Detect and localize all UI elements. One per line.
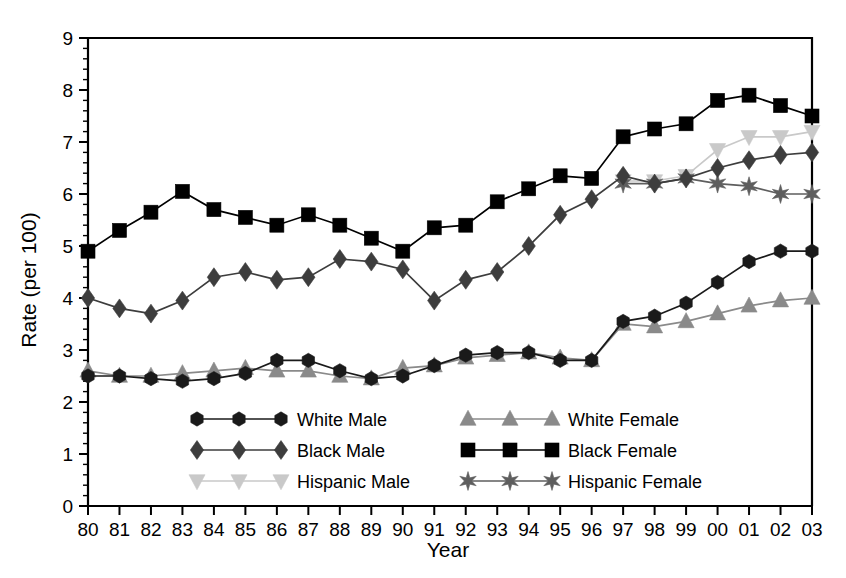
data-point-marker bbox=[270, 270, 283, 289]
x-tick-label: 82 bbox=[140, 519, 161, 540]
y-tick-label: 6 bbox=[62, 184, 73, 205]
legend-item-label: Hispanic Male bbox=[297, 472, 410, 492]
data-point-marker bbox=[804, 289, 820, 304]
data-point-marker bbox=[710, 144, 726, 159]
data-point-marker bbox=[522, 237, 535, 256]
data-point-marker bbox=[522, 182, 536, 196]
x-tick-label: 83 bbox=[172, 519, 193, 540]
y-tick-label: 4 bbox=[62, 288, 73, 309]
legend-item-label: White Female bbox=[568, 410, 679, 430]
x-tick-label: 03 bbox=[801, 519, 822, 540]
y-tick-label: 5 bbox=[62, 236, 73, 257]
legend-item-hispanic-female[interactable]: Hispanic Female bbox=[460, 472, 702, 492]
data-point-marker bbox=[774, 99, 788, 113]
x-tick-label: 90 bbox=[392, 519, 413, 540]
x-tick-label: 89 bbox=[361, 519, 382, 540]
data-point-marker bbox=[503, 443, 517, 457]
data-point-marker bbox=[774, 146, 787, 165]
x-tick-label: 02 bbox=[770, 519, 791, 540]
data-point-marker bbox=[207, 268, 220, 287]
data-point-marker bbox=[81, 244, 95, 258]
y-tick-label: 8 bbox=[62, 80, 73, 101]
series-white-female bbox=[80, 289, 820, 385]
x-tick-label: 91 bbox=[424, 519, 445, 540]
data-point-marker bbox=[490, 195, 504, 209]
data-point-marker bbox=[648, 309, 660, 323]
legend-item-black-female[interactable]: Black Female bbox=[461, 441, 677, 461]
data-point-marker bbox=[301, 208, 315, 222]
y-axis-title: Rate (per 100) bbox=[17, 212, 40, 347]
data-point-marker bbox=[190, 441, 203, 460]
data-point-marker bbox=[428, 291, 441, 310]
legend-item-label: Black Female bbox=[568, 441, 677, 461]
legend-item-white-female[interactable]: White Female bbox=[460, 410, 679, 430]
data-point-marker bbox=[743, 254, 755, 268]
x-tick-label: 92 bbox=[455, 519, 476, 540]
x-tick-label: 84 bbox=[203, 519, 225, 540]
y-tick-label: 1 bbox=[62, 444, 73, 465]
data-point-marker bbox=[113, 299, 126, 318]
data-point-marker bbox=[271, 353, 283, 367]
y-tick-label: 3 bbox=[62, 340, 73, 361]
data-point-marker bbox=[459, 218, 473, 232]
data-point-marker bbox=[176, 291, 189, 310]
data-point-marker bbox=[545, 443, 559, 457]
data-point-marker bbox=[302, 353, 314, 367]
x-axis: 8081828384858687888990919293949596979899… bbox=[77, 506, 822, 540]
data-point-marker bbox=[81, 289, 94, 308]
x-tick-label: 95 bbox=[550, 519, 571, 540]
series-black-female bbox=[81, 88, 819, 258]
x-tick-label: 81 bbox=[109, 519, 130, 540]
data-point-marker bbox=[711, 275, 723, 289]
series-black-male bbox=[81, 143, 818, 323]
data-point-marker bbox=[232, 441, 245, 460]
x-tick-label: 88 bbox=[329, 519, 350, 540]
y-tick-label: 2 bbox=[62, 392, 73, 413]
data-point-marker bbox=[396, 260, 409, 279]
data-point-marker bbox=[270, 218, 284, 232]
plot-frame bbox=[88, 38, 812, 506]
data-point-marker bbox=[585, 190, 598, 209]
data-point-marker bbox=[274, 441, 287, 460]
legend-item-label: Black Male bbox=[297, 441, 385, 461]
data-point-marker bbox=[145, 371, 157, 385]
chart-legend: White MaleBlack MaleHispanic MaleWhite F… bbox=[189, 410, 702, 492]
data-point-marker bbox=[742, 151, 755, 170]
data-point-marker bbox=[333, 218, 347, 232]
data-point-marker bbox=[459, 270, 472, 289]
x-tick-label: 00 bbox=[707, 519, 728, 540]
data-point-marker bbox=[554, 205, 567, 224]
x-axis-title: Year bbox=[427, 538, 469, 561]
data-point-marker bbox=[189, 475, 205, 490]
y-tick-label: 7 bbox=[62, 132, 73, 153]
line-chart: 0123456789 80818283848586878889909192939… bbox=[0, 0, 846, 578]
data-point-marker bbox=[333, 250, 346, 269]
data-point-marker bbox=[112, 223, 126, 237]
x-tick-label: 87 bbox=[298, 519, 319, 540]
data-point-marker bbox=[679, 117, 693, 131]
data-point-marker bbox=[553, 169, 567, 183]
x-tick-label: 85 bbox=[235, 519, 256, 540]
legend-item-label: Hispanic Female bbox=[568, 472, 702, 492]
x-tick-label: 98 bbox=[644, 519, 665, 540]
legend-item-label: White Male bbox=[297, 410, 387, 430]
data-point-marker bbox=[711, 159, 724, 178]
data-point-marker bbox=[742, 88, 756, 102]
data-point-marker bbox=[806, 244, 818, 258]
data-point-marker bbox=[175, 184, 189, 198]
data-point-marker bbox=[233, 412, 245, 426]
legend-item-hispanic-male[interactable]: Hispanic Male bbox=[189, 472, 410, 492]
data-point-marker bbox=[275, 412, 287, 426]
data-point-marker bbox=[711, 93, 725, 107]
data-point-marker bbox=[585, 171, 599, 185]
legend-item-white-male[interactable]: White Male bbox=[191, 410, 387, 430]
data-point-marker bbox=[239, 263, 252, 282]
data-point-marker bbox=[461, 443, 475, 457]
x-tick-label: 80 bbox=[77, 519, 98, 540]
data-point-marker bbox=[238, 210, 252, 224]
legend-item-black-male[interactable]: Black Male bbox=[190, 441, 385, 461]
data-point-marker bbox=[427, 221, 441, 235]
data-point-marker bbox=[364, 231, 378, 245]
y-tick-label: 0 bbox=[62, 496, 73, 517]
data-point-marker bbox=[774, 244, 786, 258]
